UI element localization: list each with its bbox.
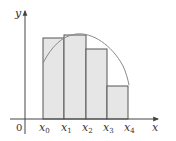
rectangle-2 xyxy=(64,35,86,119)
partition-label-x0: x0 xyxy=(39,121,50,135)
partition-label-x3: x3 xyxy=(103,121,114,135)
rectangles xyxy=(43,35,128,119)
origin-label: 0 xyxy=(16,122,22,133)
rectangle-4 xyxy=(107,86,128,119)
partition-label-x2: x2 xyxy=(82,121,93,135)
partition-labels: x0 x1 x2 x3 x4 xyxy=(39,121,135,135)
partition-label-x1: x1 xyxy=(61,121,72,135)
rectangle-1 xyxy=(43,38,64,119)
y-axis-label: y xyxy=(14,7,22,20)
partition-label-x4: x4 xyxy=(124,121,135,135)
riemann-sum-diagram: y x 0 x0 x1 x2 x3 x4 xyxy=(0,0,176,141)
rectangle-3 xyxy=(86,49,107,119)
x-axis-label: x xyxy=(152,121,159,134)
